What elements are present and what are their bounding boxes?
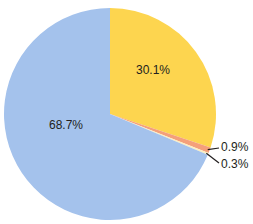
slice-label-68-7: 68.7% xyxy=(49,118,83,132)
leader-line xyxy=(206,153,219,163)
pie-chart xyxy=(0,0,253,224)
slice-label-30-1: 30.1% xyxy=(136,63,170,77)
slice-label-0-3: 0.3% xyxy=(221,157,248,171)
slice-label-0-9: 0.9% xyxy=(221,140,248,154)
